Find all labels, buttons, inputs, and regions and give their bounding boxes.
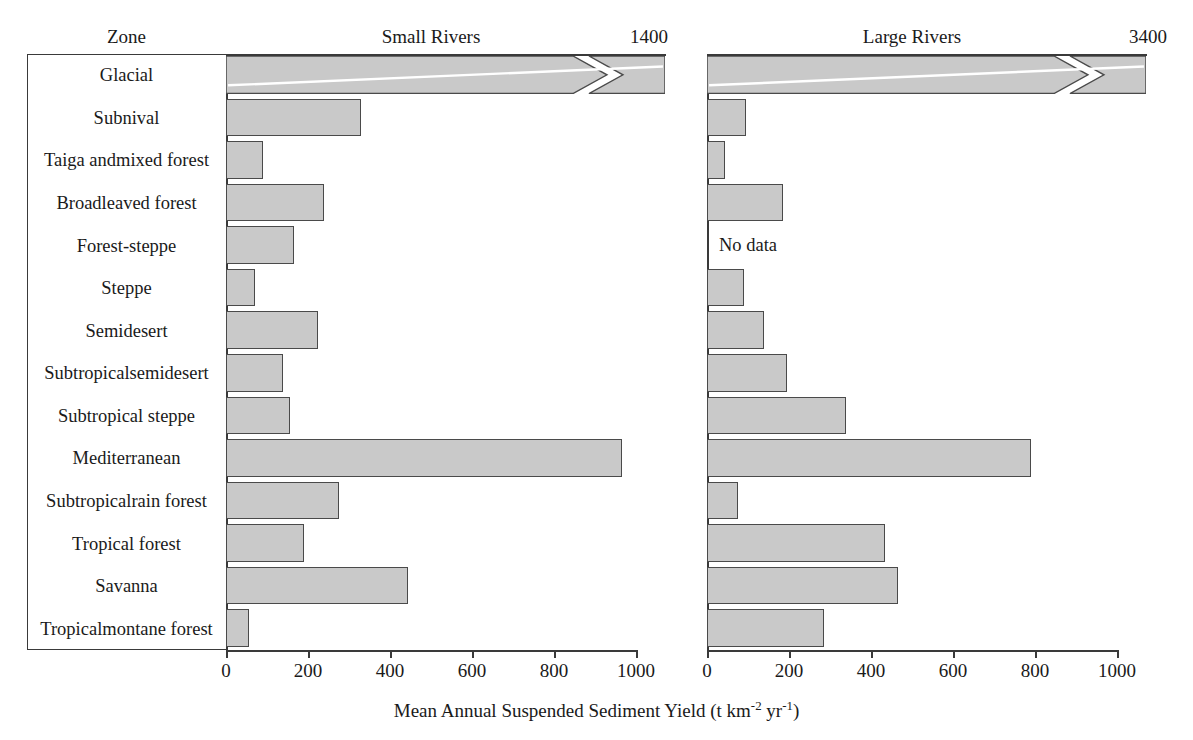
- bar-rect: [707, 397, 846, 435]
- bar-rect: [226, 269, 255, 307]
- bar: [226, 269, 255, 307]
- zone-label: Broadleaved forest: [28, 183, 225, 226]
- bar-rect: [707, 609, 824, 647]
- small-rivers-x-axis: [226, 650, 638, 652]
- bar: [707, 99, 746, 137]
- x-tick-label: 600: [442, 660, 502, 682]
- bar: [707, 567, 898, 605]
- bar-broken: [707, 56, 1146, 94]
- x-tick-label: 800: [524, 660, 584, 682]
- x-tick: [636, 650, 638, 658]
- bar: [707, 354, 787, 392]
- bar-rect: [226, 184, 324, 222]
- bar: [707, 609, 824, 647]
- x-tick-label: 400: [841, 660, 901, 682]
- x-tick: [707, 650, 709, 658]
- bar-rect: [226, 439, 622, 477]
- zone-label: Tropical forest: [28, 523, 225, 566]
- x-tick-label: 800: [1005, 660, 1065, 682]
- small-rivers-cap-value: 1400: [556, 26, 668, 48]
- bar: [226, 311, 318, 349]
- bar-rect: [707, 567, 898, 605]
- zone-label: Subtropicalrain forest: [28, 481, 225, 524]
- bar: [707, 269, 744, 307]
- x-tick: [472, 650, 474, 658]
- zone-label: Subtropicalsemidesert: [28, 353, 225, 396]
- bar-rect: [707, 354, 787, 392]
- zone-label-column: GlacialSubnivalTaiga andmixed forestBroa…: [27, 54, 226, 650]
- zone-label: Subnival: [28, 98, 225, 141]
- large-rivers-cap-value: 3400: [1055, 26, 1167, 48]
- bar: [226, 354, 283, 392]
- bar: [226, 99, 361, 137]
- bar-rect: [707, 269, 744, 307]
- zone-label: Tropicalmontane forest: [28, 608, 225, 651]
- bar-broken: [226, 56, 665, 94]
- bar: [226, 609, 249, 647]
- bar-rect: [707, 439, 1031, 477]
- x-tick: [871, 650, 873, 658]
- bar: [226, 567, 408, 605]
- bar: [707, 141, 725, 179]
- bar: [707, 397, 846, 435]
- x-tick: [554, 650, 556, 658]
- large-rivers-x-axis: [707, 650, 1119, 652]
- bar: [707, 439, 1031, 477]
- x-tick: [789, 650, 791, 658]
- bar-rect: [226, 524, 304, 562]
- zone-label: Steppe: [28, 268, 225, 311]
- bar-rect: [707, 482, 738, 520]
- zone-label: Semidesert: [28, 310, 225, 353]
- x-tick-label: 0: [196, 660, 256, 682]
- bar-rect: [226, 311, 318, 349]
- bar: [226, 226, 294, 264]
- x-tick-label: 1000: [606, 660, 666, 682]
- x-tick: [308, 650, 310, 658]
- bar: [226, 439, 622, 477]
- x-axis-label: Mean Annual Suspended Sediment Yield (t …: [0, 698, 1193, 722]
- zone-label: Subtropical steppe: [28, 396, 225, 439]
- bar-rect: [707, 311, 764, 349]
- zone-label: Mediterranean: [28, 438, 225, 481]
- x-tick: [1035, 650, 1037, 658]
- bar: [707, 524, 885, 562]
- bar-rect: [226, 609, 249, 647]
- zone-column-header: Zone: [27, 26, 226, 48]
- zone-label: Savanna: [28, 566, 225, 609]
- bar: [226, 184, 324, 222]
- x-tick-label: 1000: [1087, 660, 1147, 682]
- no-data-label: No data: [711, 224, 777, 267]
- bar: [707, 311, 764, 349]
- x-tick-label: 200: [759, 660, 819, 682]
- x-tick: [226, 650, 228, 658]
- zone-label: Taiga andmixed forest: [28, 140, 225, 183]
- bar-rect: [707, 141, 725, 179]
- bar: [226, 524, 304, 562]
- bar-rect: [226, 567, 408, 605]
- x-tick-label: 200: [278, 660, 338, 682]
- bar: [707, 184, 783, 222]
- bar-rect: [226, 354, 283, 392]
- bar: [226, 397, 290, 435]
- bar-rect: [226, 226, 294, 264]
- bar: [226, 141, 263, 179]
- bar: [707, 482, 738, 520]
- bar-rect: [226, 99, 361, 137]
- bar-rect: [226, 397, 290, 435]
- bar-rect: [226, 141, 263, 179]
- bar: [226, 482, 339, 520]
- zone-label: Forest-steppe: [28, 225, 225, 268]
- zone-label: Glacial: [28, 55, 225, 98]
- x-tick-label: 0: [677, 660, 737, 682]
- bar-rect: [707, 99, 746, 137]
- x-tick: [390, 650, 392, 658]
- chart-figure: Zone Small Rivers 1400 Large Rivers 3400…: [0, 0, 1193, 740]
- bar-rect: [226, 482, 339, 520]
- x-tick-label: 400: [360, 660, 420, 682]
- x-tick: [1117, 650, 1119, 658]
- bar-rect: [707, 184, 783, 222]
- x-tick: [953, 650, 955, 658]
- x-tick-label: 600: [923, 660, 983, 682]
- bar-rect: [707, 524, 885, 562]
